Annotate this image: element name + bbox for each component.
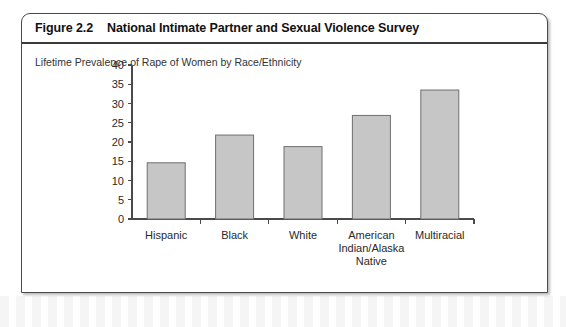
bar-hispanic: [147, 163, 185, 219]
x-tick-label: Multiracial: [415, 229, 465, 241]
y-tick-label: 10: [112, 175, 124, 187]
figure-number: Figure 2.2: [35, 21, 93, 35]
y-tick-label: 15: [112, 155, 124, 167]
y-tick-label: 5: [118, 194, 124, 206]
y-tick-label: 35: [112, 78, 124, 90]
figure-title: National Intimate Partner and Sexual Vio…: [107, 21, 419, 35]
bar-chart: 0510152025303540HispanicBlackWhiteAmeric…: [22, 44, 549, 292]
x-tick-label: Indian/Alaska: [338, 242, 405, 254]
bar-white: [284, 147, 322, 219]
bar-multiracial: [421, 90, 459, 219]
y-tick-label: 0: [118, 213, 124, 225]
x-tick-label: Hispanic: [145, 229, 188, 241]
y-tick-label: 25: [112, 117, 124, 129]
x-tick-label: White: [289, 229, 317, 241]
y-tick-label: 20: [112, 136, 124, 148]
x-tick-label: American: [348, 229, 394, 241]
y-tick-label: 30: [112, 98, 124, 110]
x-tick-label: Native: [356, 255, 387, 267]
y-tick-label: 40: [112, 59, 124, 71]
bar-black: [216, 135, 254, 219]
bar-chart-svg: 0510152025303540HispanicBlackWhiteAmeric…: [22, 44, 549, 292]
figure-card: Figure 2.2 National Intimate Partner and…: [21, 13, 548, 293]
x-tick-label: Black: [221, 229, 248, 241]
bar-american-indian-alaska-native: [352, 115, 390, 219]
page-bleed-through: [0, 296, 566, 327]
figure-header: Figure 2.2 National Intimate Partner and…: [22, 14, 547, 44]
figure-body: Lifetime Prevalence of Rape of Women by …: [22, 44, 547, 292]
